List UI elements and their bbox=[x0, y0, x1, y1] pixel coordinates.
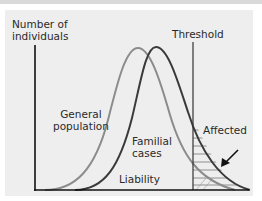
familial-label-line1: Familial bbox=[132, 135, 172, 147]
threshold-label: Threshold bbox=[172, 28, 224, 40]
general-label-line2: population bbox=[53, 120, 109, 132]
affected-arrow-icon bbox=[221, 150, 238, 167]
familial-cases-label: Familial cases bbox=[132, 135, 172, 159]
general-population-label: General population bbox=[53, 108, 109, 132]
affected-label: Affected bbox=[203, 124, 247, 136]
y-axis-label: Number of individuals bbox=[12, 18, 68, 42]
x-axis-label: Liability bbox=[119, 173, 160, 185]
familial-label-line2: cases bbox=[132, 147, 172, 159]
affected-region-hatch bbox=[193, 130, 250, 190]
y-axis-label-line2: individuals bbox=[12, 30, 68, 42]
y-axis-label-line1: Number of bbox=[12, 18, 68, 30]
general-label-line1: General bbox=[53, 108, 109, 120]
